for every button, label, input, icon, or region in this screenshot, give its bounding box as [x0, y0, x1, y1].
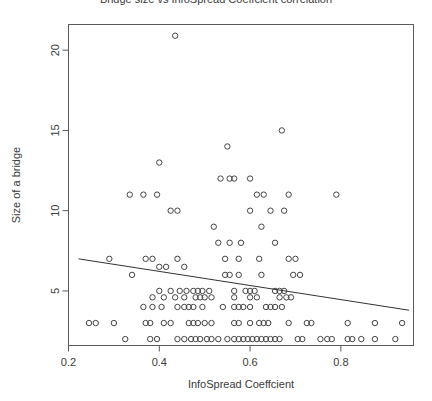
data-point [345, 320, 350, 325]
data-point [218, 176, 223, 181]
x-axis-label: InfoSpread Coeffcient [188, 378, 294, 390]
data-point [172, 295, 177, 300]
data-point [216, 336, 221, 341]
data-point [268, 208, 273, 213]
data-point [86, 320, 91, 325]
y-axis-label: Size of a bridge [10, 147, 22, 223]
data-point [202, 320, 207, 325]
data-point [141, 192, 146, 197]
data-point [236, 256, 241, 261]
data-point [154, 192, 159, 197]
plot-frame [69, 25, 414, 346]
data-point [334, 192, 339, 197]
y-tick-label: 5 [50, 288, 62, 294]
data-point [161, 295, 166, 300]
x-tick-label: 0.8 [333, 356, 348, 368]
data-point [168, 208, 173, 213]
data-point [359, 336, 364, 341]
trendline [78, 259, 408, 310]
chart-canvas: 0.20.40.60.85101520InfoSpread Coeffcient… [0, 0, 432, 401]
data-point [286, 320, 291, 325]
data-point [182, 336, 187, 341]
data-point [279, 304, 284, 309]
data-point [277, 295, 282, 300]
data-point [141, 304, 146, 309]
data-point [247, 320, 252, 325]
data-point [259, 272, 264, 277]
data-point [157, 160, 162, 165]
data-point [231, 295, 236, 300]
data-point [256, 256, 261, 261]
data-point [281, 208, 286, 213]
data-point [123, 336, 128, 341]
data-point [247, 208, 252, 213]
scatter-plot-figure: Bridge size vs InfoSpread Coeffcient cor… [0, 0, 432, 401]
data-point [184, 288, 189, 293]
data-point [182, 264, 187, 269]
data-point [372, 320, 377, 325]
data-point [175, 208, 180, 213]
data-point [127, 192, 132, 197]
data-point [111, 320, 116, 325]
data-point [148, 336, 153, 341]
data-point [293, 256, 298, 261]
y-tick-label: 15 [50, 124, 62, 136]
data-point [227, 240, 232, 245]
data-point [172, 33, 177, 38]
data-point [150, 256, 155, 261]
data-point [163, 264, 168, 269]
data-point [286, 192, 291, 197]
data-point [247, 304, 252, 309]
data-point [231, 288, 236, 293]
data-point [200, 304, 205, 309]
data-point [209, 295, 214, 300]
data-point [393, 336, 398, 341]
data-point [157, 264, 162, 269]
x-tick-label: 0.6 [242, 356, 257, 368]
data-point [286, 256, 291, 261]
data-point [159, 304, 164, 309]
data-point [154, 336, 159, 341]
data-point [247, 295, 252, 300]
data-point [168, 288, 173, 293]
data-point [318, 336, 323, 341]
data-point [254, 192, 259, 197]
data-point [161, 320, 166, 325]
data-point [175, 256, 180, 261]
data-point [216, 240, 221, 245]
data-point [211, 224, 216, 229]
x-tick-label: 0.2 [61, 356, 76, 368]
data-point [399, 320, 404, 325]
data-point [225, 144, 230, 149]
data-point [209, 320, 214, 325]
data-point [254, 295, 259, 300]
data-point [225, 336, 230, 341]
data-point [297, 272, 302, 277]
data-point [238, 240, 243, 245]
data-point [372, 336, 377, 341]
data-point [272, 240, 277, 245]
data-point [143, 256, 148, 261]
data-point [175, 304, 180, 309]
data-point [259, 224, 264, 229]
data-point [236, 272, 241, 277]
x-tick-label: 0.4 [152, 356, 167, 368]
data-point [107, 256, 112, 261]
data-point [150, 295, 155, 300]
data-point [261, 192, 266, 197]
data-point [220, 304, 225, 309]
data-point [222, 256, 227, 261]
data-point [177, 288, 182, 293]
data-point [150, 304, 155, 309]
data-point [207, 288, 212, 293]
data-point [182, 295, 187, 300]
data-layer [78, 33, 408, 342]
data-point [157, 288, 162, 293]
data-point [279, 128, 284, 133]
data-point [129, 272, 134, 277]
y-tick-label: 20 [50, 44, 62, 56]
y-tick-label: 10 [50, 205, 62, 217]
data-point [247, 176, 252, 181]
data-point [175, 336, 180, 341]
data-point [93, 320, 98, 325]
